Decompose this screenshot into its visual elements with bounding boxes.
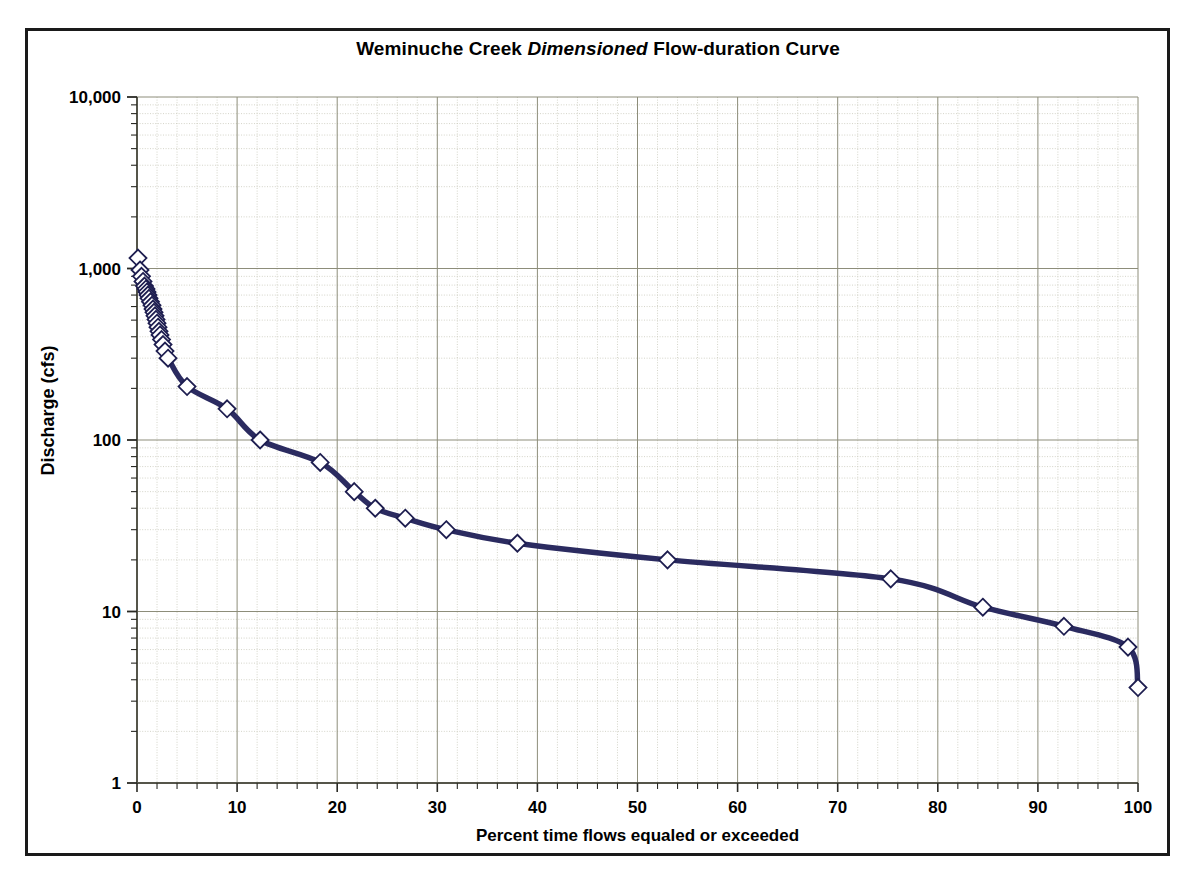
data-point-marker [659, 551, 676, 568]
data-point-marker [438, 521, 455, 538]
x-tick-label: 30 [428, 798, 447, 817]
x-tick-label: 70 [828, 798, 847, 817]
y-tick-label: 10,000 [69, 88, 121, 107]
x-tick-label: 0 [132, 798, 141, 817]
x-tick-label: 50 [628, 798, 647, 817]
x-axis-tick-labels: 0102030405060708090100 [132, 798, 1152, 817]
y-tick-label: 1,000 [78, 260, 121, 279]
x-tick-label: 90 [1028, 798, 1047, 817]
y-axis-ticks [127, 97, 137, 783]
x-tick-label: 20 [328, 798, 347, 817]
y-tick-label: 10 [102, 603, 121, 622]
x-tick-label: 40 [528, 798, 547, 817]
chart-page: Weminuche Creek Dimensioned Flow-duratio… [0, 0, 1196, 877]
x-tick-label: 100 [1124, 798, 1152, 817]
data-series-markers [130, 250, 1147, 697]
x-tick-label: 10 [228, 798, 247, 817]
x-tick-label: 60 [728, 798, 747, 817]
y-tick-label: 100 [93, 431, 121, 450]
x-tick-label: 80 [928, 798, 947, 817]
data-point-marker [1130, 679, 1147, 696]
data-point-marker [397, 510, 414, 527]
y-tick-label: 1 [112, 774, 121, 793]
data-point-marker [509, 535, 526, 552]
flow-duration-plot: 0102030405060708090100 1101001,00010,000 [0, 0, 1196, 877]
data-point-marker [974, 599, 991, 616]
x-axis-ticks [137, 783, 1138, 792]
y-axis-tick-labels: 1101001,00010,000 [69, 88, 121, 793]
data-point-marker [882, 570, 899, 587]
